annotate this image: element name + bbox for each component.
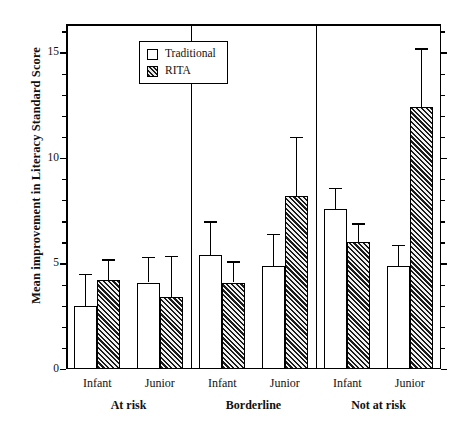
- error-bar-cap-2-1: [227, 261, 240, 262]
- error-bar-stem-3-0: [273, 234, 274, 266]
- legend-label-traditional: Traditional: [165, 48, 216, 60]
- error-bar-cap-4-1: [352, 223, 365, 224]
- error-bar-stem-1-0: [148, 257, 149, 282]
- error-bar-cap-5-1: [415, 48, 428, 49]
- y-tick-right-15: [441, 52, 447, 53]
- bar-not-at-risk-junior-rita: [410, 107, 433, 369]
- bar-chart: Mean improvement in Literacy Standard Sc…: [0, 0, 452, 428]
- y-tick-label-15: 15: [48, 47, 60, 59]
- y-tick-10: [60, 158, 66, 159]
- error-bar-stem-5-1: [421, 48, 422, 107]
- y-tick-right-2: [441, 327, 445, 328]
- y-tick-label-5: 5: [53, 258, 59, 270]
- bar-borderline-infant-rita: [222, 283, 245, 370]
- y-tick-5: [60, 263, 66, 264]
- x-sublabel-borderline-infant: Infant: [208, 376, 237, 391]
- y-tick-11: [62, 137, 66, 138]
- y-tick-9: [62, 179, 66, 180]
- bar-borderline-infant-traditional: [199, 255, 222, 369]
- error-bar-cap-2-0: [204, 221, 217, 222]
- error-bar-stem-0-1: [108, 259, 109, 280]
- y-tick-6: [62, 242, 66, 243]
- bar-at-risk-junior-rita: [160, 297, 183, 369]
- error-bar-stem-2-1: [233, 261, 234, 282]
- y-tick-right-10: [441, 158, 447, 159]
- bar-not-at-risk-infant-rita: [347, 242, 370, 369]
- y-tick-right-5: [441, 263, 447, 264]
- error-bar-cap-4-0: [329, 188, 342, 189]
- x-axis-line: [66, 368, 441, 370]
- top-axis-line: [66, 24, 441, 26]
- y-tick-label-10: 10: [48, 152, 60, 164]
- error-bar-cap-5-0: [392, 245, 405, 246]
- y-tick-14: [62, 74, 66, 75]
- error-bar-stem-0-0: [85, 274, 86, 306]
- legend-item-traditional: Traditional: [147, 47, 216, 61]
- y-tick-right-13: [441, 95, 445, 96]
- y-tick-right-12: [441, 116, 445, 117]
- legend-swatch-rita-icon: [147, 66, 158, 77]
- y-tick-right-9: [441, 179, 445, 180]
- y-tick-16: [62, 31, 66, 32]
- error-bar-stem-2-0: [210, 221, 211, 255]
- error-bar-cap-3-1: [290, 137, 303, 138]
- y-tick-right-0: [441, 369, 447, 370]
- x-sublabel-not-at-risk-junior: Junior: [395, 376, 425, 391]
- legend-item-rita: RITA: [147, 64, 216, 78]
- y-tick-right-7: [441, 221, 445, 222]
- y-axis-title: Mean improvement in Literacy Standard Sc…: [29, 36, 44, 316]
- error-bar-stem-3-1: [296, 137, 297, 196]
- bar-at-risk-junior-traditional: [137, 283, 160, 370]
- x-sublabel-at-risk-junior: Junior: [145, 376, 175, 391]
- y-tick-right-1: [441, 348, 445, 349]
- x-grouplabel-at-risk: At risk: [111, 398, 147, 413]
- y-tick-0: [60, 369, 66, 370]
- y-tick-right-8: [441, 200, 445, 201]
- y-tick-12: [62, 116, 66, 117]
- error-bar-stem-1-1: [171, 256, 172, 297]
- error-bar-cap-1-1: [165, 256, 178, 257]
- bar-at-risk-infant-traditional: [74, 306, 97, 369]
- x-sublabel-at-risk-infant: Infant: [83, 376, 112, 391]
- y-tick-right-11: [441, 137, 445, 138]
- error-bar-stem-4-0: [335, 188, 336, 209]
- bar-not-at-risk-junior-traditional: [387, 266, 410, 369]
- legend: Traditional RITA: [139, 41, 228, 84]
- error-bar-cap-3-0: [267, 234, 280, 235]
- error-bar-stem-5-0: [398, 245, 399, 266]
- error-bar-stem-4-1: [358, 223, 359, 242]
- bar-borderline-junior-traditional: [262, 266, 285, 369]
- y-tick-right-16: [441, 31, 445, 32]
- error-bar-cap-0-0: [79, 274, 92, 275]
- y-tick-4: [62, 285, 66, 286]
- y-tick-1: [62, 348, 66, 349]
- legend-swatch-traditional-icon: [147, 49, 158, 60]
- bar-not-at-risk-infant-traditional: [324, 209, 347, 369]
- y-tick-label-0: 0: [53, 363, 59, 375]
- y-tick-7: [62, 221, 66, 222]
- x-grouplabel-not-at-risk: Not at risk: [351, 398, 406, 413]
- plot-area: 051015 Traditional RITA: [66, 24, 441, 369]
- error-bar-cap-1-0: [142, 257, 155, 258]
- group-separator-2: [316, 24, 317, 369]
- bar-at-risk-infant-rita: [97, 280, 120, 369]
- y-tick-right-4: [441, 285, 445, 286]
- x-grouplabel-borderline: Borderline: [226, 398, 281, 413]
- x-sublabel-not-at-risk-infant: Infant: [333, 376, 362, 391]
- bar-borderline-junior-rita: [285, 196, 308, 369]
- y-tick-2: [62, 327, 66, 328]
- right-axis-line: [440, 24, 442, 369]
- y-tick-right-6: [441, 242, 445, 243]
- error-bar-cap-0-1: [102, 259, 115, 260]
- legend-label-rita: RITA: [165, 65, 191, 77]
- y-tick-right-3: [441, 306, 445, 307]
- y-tick-3: [62, 306, 66, 307]
- x-sublabel-borderline-junior: Junior: [270, 376, 300, 391]
- y-tick-13: [62, 95, 66, 96]
- y-axis-line: [66, 24, 68, 369]
- y-tick-8: [62, 200, 66, 201]
- y-tick-15: [60, 52, 66, 53]
- y-tick-right-14: [441, 74, 445, 75]
